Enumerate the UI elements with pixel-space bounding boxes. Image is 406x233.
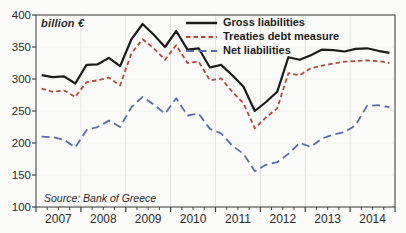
legend-line-swatch [186, 33, 217, 41]
legend-line-swatch [186, 19, 217, 27]
legend: Gross liabilitiesTreaties debt measureNe… [186, 16, 339, 57]
legend-item: Gross liabilities [186, 16, 339, 29]
x-tick-label: 2007 [36, 212, 80, 226]
y-tick-label: 250 [0, 105, 31, 117]
legend-label: Net liabilities [223, 44, 291, 57]
y-axis-unit-label: billion € [41, 17, 84, 29]
x-tick-label: 2011 [216, 212, 260, 226]
legend-label: Gross liabilities [223, 16, 305, 29]
y-tick-label: 150 [0, 169, 31, 181]
x-tick-label: 2008 [81, 212, 125, 226]
x-tick-label: 2012 [261, 212, 305, 226]
y-tick-label: 100 [0, 201, 31, 213]
y-tick-label: 350 [0, 41, 31, 53]
x-tick-label: 2014 [351, 212, 395, 226]
x-tick-label: 2013 [306, 212, 350, 226]
legend-item: Net liabilities [186, 44, 339, 57]
legend-line-swatch [186, 47, 217, 55]
legend-label: Treaties debt measure [223, 30, 339, 43]
y-tick-label: 400 [0, 9, 31, 21]
external-liabilities-chart: billion € Source: Bank of Greece Gross l… [0, 0, 406, 233]
y-tick-label: 200 [0, 137, 31, 149]
source-note: Source: Bank of Greece [44, 192, 156, 204]
y-tick-label: 300 [0, 73, 31, 85]
x-tick-label: 2010 [171, 212, 215, 226]
x-tick-label: 2009 [126, 212, 170, 226]
legend-item: Treaties debt measure [186, 30, 339, 43]
